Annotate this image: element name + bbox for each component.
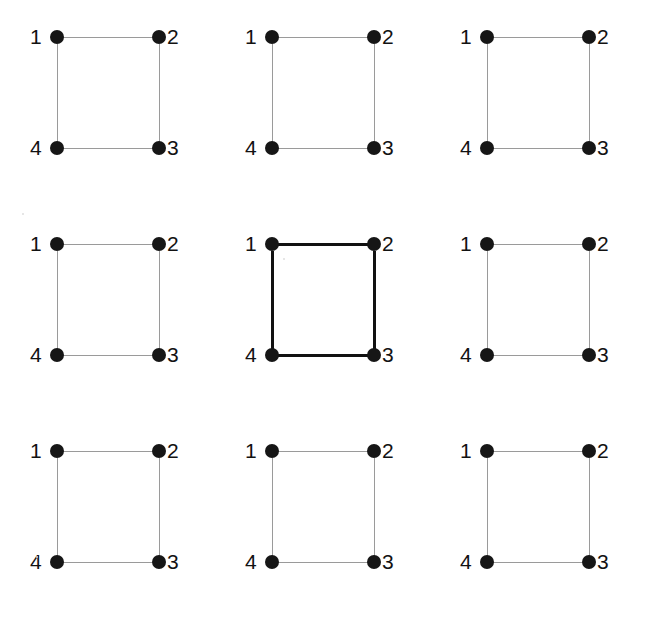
scan-speckle [36, 556, 38, 558]
graph-node-label-2: 2 [167, 233, 179, 254]
graph-node-4 [265, 555, 279, 569]
scan-speckle [283, 258, 285, 260]
graph-node-label-4: 4 [30, 344, 42, 365]
graph-node-2 [367, 237, 381, 251]
graph-node-3 [367, 141, 381, 155]
graph-edge-1-4 [272, 458, 273, 556]
graph-panel: 1234 [430, 0, 645, 207]
graph-edge-2-3 [589, 458, 590, 556]
graph-node-label-2: 2 [382, 440, 394, 461]
graph-edge-1-2 [278, 243, 368, 246]
graph-node-2 [152, 444, 166, 458]
graph-node-3 [367, 348, 381, 362]
graph-edge-4-3 [278, 562, 368, 563]
graph-edge-1-4 [57, 458, 58, 556]
graph-node-label-1: 1 [30, 26, 42, 47]
graph-panel: 1234 [0, 0, 215, 207]
graph-node-3 [152, 555, 166, 569]
graph-node-label-4: 4 [460, 344, 472, 365]
graph-edge-2-3 [159, 251, 160, 349]
graph-node-3 [367, 555, 381, 569]
graph-panel: 1234 [215, 414, 430, 620]
graph-edge-2-3 [159, 44, 160, 142]
graph-edge-1-2 [493, 37, 583, 38]
graph-node-label-4: 4 [30, 137, 42, 158]
graph-edge-4-3 [493, 562, 583, 563]
graph-edge-4-3 [278, 354, 368, 357]
graph-node-3 [582, 348, 596, 362]
graph-edge-4-3 [493, 148, 583, 149]
graph-edge-1-4 [487, 458, 488, 556]
graph-node-label-3: 3 [167, 344, 179, 365]
graph-node-4 [480, 141, 494, 155]
graph-node-2 [152, 30, 166, 44]
graph-edge-1-2 [278, 451, 368, 452]
graph-node-1 [265, 30, 279, 44]
graph-edge-2-3 [159, 458, 160, 556]
graph-node-2 [582, 444, 596, 458]
graph-node-label-4: 4 [245, 551, 257, 572]
graph-edge-1-4 [487, 251, 488, 349]
graph-node-1 [265, 237, 279, 251]
graph-node-4 [480, 348, 494, 362]
graph-edge-4-3 [63, 148, 153, 149]
graph-node-1 [480, 237, 494, 251]
graph-node-1 [50, 237, 64, 251]
graph-edge-1-4 [57, 251, 58, 349]
graph-edge-4-3 [493, 355, 583, 356]
graph-node-4 [265, 141, 279, 155]
graph-edge-2-3 [373, 251, 376, 349]
graph-node-4 [480, 555, 494, 569]
graph-panel: 1234 [215, 207, 430, 414]
graph-node-3 [582, 141, 596, 155]
graph-node-label-1: 1 [460, 233, 472, 254]
graph-node-label-3: 3 [597, 344, 609, 365]
graph-node-3 [582, 555, 596, 569]
graph-grid: 123412341234123412341234123412341234 [0, 0, 645, 620]
graph-node-label-3: 3 [597, 551, 609, 572]
graph-edge-1-4 [487, 44, 488, 142]
graph-node-label-3: 3 [382, 344, 394, 365]
graph-node-label-4: 4 [30, 551, 42, 572]
graph-node-label-1: 1 [460, 440, 472, 461]
graph-node-4 [50, 555, 64, 569]
graph-node-4 [265, 348, 279, 362]
graph-node-label-3: 3 [597, 137, 609, 158]
graph-node-3 [152, 348, 166, 362]
graph-edge-1-2 [493, 244, 583, 245]
graph-edge-1-4 [272, 44, 273, 142]
graph-edge-1-4 [57, 44, 58, 142]
graph-node-1 [480, 30, 494, 44]
graph-edge-1-4 [271, 251, 274, 349]
graph-node-label-1: 1 [245, 26, 257, 47]
graph-node-label-2: 2 [382, 26, 394, 47]
graph-node-label-4: 4 [460, 551, 472, 572]
graph-node-label-3: 3 [167, 137, 179, 158]
graph-edge-2-3 [374, 458, 375, 556]
graph-node-3 [152, 141, 166, 155]
graph-node-2 [367, 30, 381, 44]
graph-edge-4-3 [63, 355, 153, 356]
scan-speckle [22, 213, 24, 215]
graph-node-4 [50, 348, 64, 362]
graph-node-1 [50, 30, 64, 44]
graph-node-label-2: 2 [382, 233, 394, 254]
graph-node-label-4: 4 [460, 137, 472, 158]
graph-node-2 [152, 237, 166, 251]
graph-node-label-1: 1 [460, 26, 472, 47]
graph-node-label-3: 3 [382, 137, 394, 158]
graph-edge-1-2 [63, 37, 153, 38]
graph-node-2 [582, 237, 596, 251]
graph-edge-1-2 [63, 451, 153, 452]
graph-node-label-2: 2 [597, 26, 609, 47]
graph-node-label-3: 3 [382, 551, 394, 572]
graph-edge-1-2 [63, 244, 153, 245]
graph-panel: 1234 [430, 414, 645, 620]
graph-node-label-1: 1 [30, 440, 42, 461]
graph-node-4 [50, 141, 64, 155]
graph-edge-4-3 [63, 562, 153, 563]
graph-node-2 [582, 30, 596, 44]
graph-node-label-1: 1 [245, 440, 257, 461]
graph-node-label-3: 3 [167, 551, 179, 572]
graph-node-1 [265, 444, 279, 458]
